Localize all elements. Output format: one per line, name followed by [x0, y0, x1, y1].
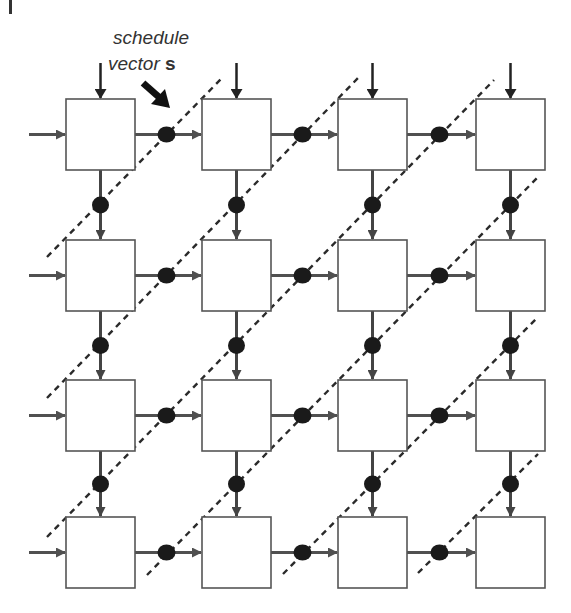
delay-dot-icon	[502, 476, 519, 493]
pe-cell-1-2	[338, 240, 407, 311]
pe-cell-2-3	[476, 380, 545, 451]
delay-dot-icon	[158, 268, 176, 284]
delay-dot-icon	[431, 268, 449, 284]
delay-registers	[92, 127, 519, 561]
delay-dot-icon	[228, 476, 245, 493]
pe-cell-3-2	[338, 517, 407, 588]
pe-cell-0-0	[66, 99, 135, 170]
delay-dot-icon	[228, 337, 245, 354]
pe-cell-1-1	[202, 240, 271, 311]
systolic-array-diagram: schedule vector s	[0, 0, 571, 613]
delay-dot-icon	[431, 545, 449, 561]
schedule-vector-arrow-icon	[143, 83, 170, 108]
delay-dot-icon	[364, 337, 381, 354]
pe-cell-3-1	[202, 517, 271, 588]
vector-symbol-s: s	[165, 53, 176, 74]
pe-cell-1-0	[66, 240, 135, 311]
delay-dot-icon	[158, 545, 176, 561]
delay-dot-icon	[294, 545, 312, 561]
delay-dot-icon	[364, 197, 381, 214]
pe-cell-3-0	[66, 517, 135, 588]
pe-cell-0-2	[338, 99, 407, 170]
delay-dot-icon	[92, 476, 109, 493]
pe-cell-2-1	[202, 380, 271, 451]
delay-dot-icon	[228, 197, 245, 214]
processing-elements	[66, 99, 545, 588]
pe-cell-1-3	[476, 240, 545, 311]
delay-dot-icon	[502, 337, 519, 354]
delay-dot-icon	[294, 127, 312, 143]
delay-dot-icon	[364, 476, 381, 493]
delay-dot-icon	[294, 408, 312, 424]
delay-dot-icon	[158, 127, 176, 143]
delay-dot-icon	[431, 408, 449, 424]
schedule-label: schedule	[113, 27, 189, 48]
pe-cell-2-2	[338, 380, 407, 451]
pe-cell-2-0	[66, 380, 135, 451]
vector-label: vector s	[108, 53, 176, 74]
pe-cell-3-3	[476, 517, 545, 588]
corner-tick	[9, 0, 12, 14]
delay-dot-icon	[158, 408, 176, 424]
delay-dot-icon	[294, 268, 312, 284]
pe-cell-0-3	[476, 99, 545, 170]
delay-dot-icon	[502, 197, 519, 214]
pe-cell-0-1	[202, 99, 271, 170]
delay-dot-icon	[92, 197, 109, 214]
delay-dot-icon	[92, 337, 109, 354]
delay-dot-icon	[431, 127, 449, 143]
